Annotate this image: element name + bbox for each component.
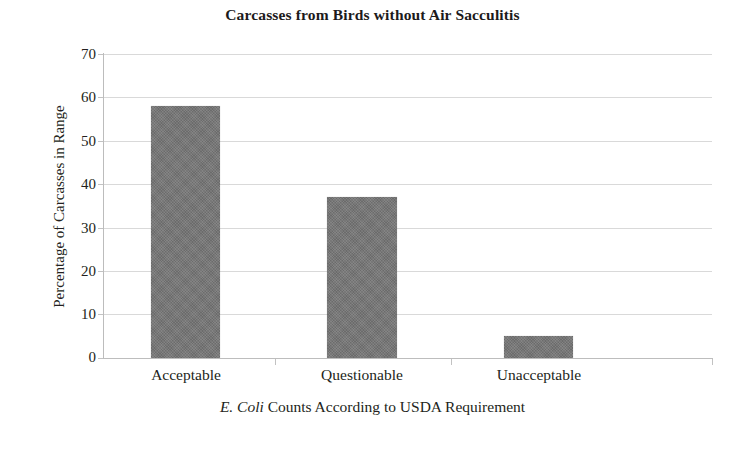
bar-unacceptable (504, 336, 573, 358)
y-tick-label-50: 50 (36, 133, 96, 150)
x-tick-mark-3 (712, 359, 713, 365)
x-tick-mark-1 (275, 359, 276, 365)
gridline-70 (103, 54, 712, 55)
y-tick-label-10: 10 (36, 306, 96, 323)
y-tick-label-30: 30 (36, 220, 96, 237)
y-tick-label-40: 40 (36, 176, 96, 193)
bar-questionable (327, 197, 397, 358)
y-tick-label-20: 20 (36, 263, 96, 280)
bar-acceptable (151, 106, 220, 358)
x-axis-line (103, 358, 713, 359)
plot-area (103, 54, 712, 358)
x-category-label-unacceptable: Unacceptable (429, 366, 649, 384)
x-axis-title-italic-part: E. Coli (220, 398, 264, 415)
y-axis-line (103, 53, 104, 359)
x-axis-title-rest: Counts According to USDA Requirement (264, 398, 525, 415)
x-axis-title: E. Coli Counts According to USDA Require… (0, 398, 745, 416)
chart-figure: Carcasses from Birds without Air Sacculi… (0, 0, 745, 456)
gridline-60 (103, 97, 712, 98)
y-tick-label-70: 70 (36, 46, 96, 63)
chart-title: Carcasses from Birds without Air Sacculi… (0, 6, 745, 24)
y-tick-label-0: 0 (36, 349, 96, 366)
x-tick-mark-2 (451, 359, 452, 365)
y-tick-label-60: 60 (36, 89, 96, 106)
